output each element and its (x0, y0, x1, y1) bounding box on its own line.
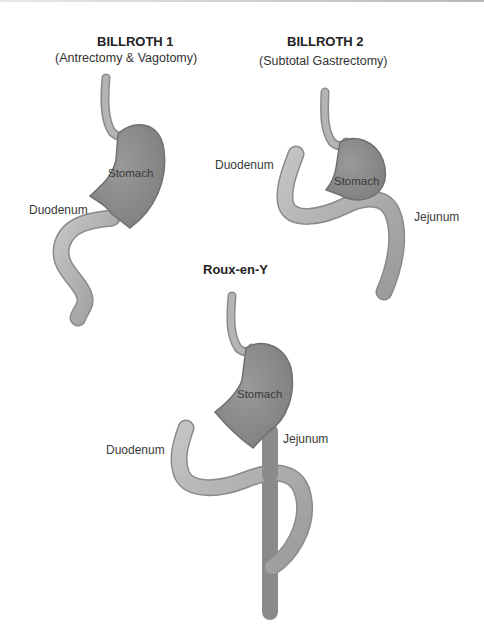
billroth-1-illustration (61, 78, 165, 318)
billroth-2-jejunum-label: Jejunum (414, 210, 459, 224)
billroth-1-subtitle: (Antrectomy & Vagotomy) (55, 51, 197, 65)
billroth-1-stomach-label: Stomach (108, 167, 153, 179)
billroth-2-subtitle: (Subtotal Gastrectomy) (259, 54, 388, 68)
billroth-1-title: BILLROTH 1 (97, 34, 174, 49)
roux-en-y-stomach-label: Stomach (237, 388, 282, 400)
billroth-2-duodenum-label: Duodenum (215, 158, 274, 172)
billroth-2-title: BILLROTH 2 (287, 34, 364, 49)
roux-en-y-duodenum-label: Duodenum (106, 443, 165, 457)
roux-en-y-jejunum-label: Jejunum (283, 432, 328, 446)
billroth-1-duodenum-label: Duodenum (29, 203, 88, 217)
roux-en-y-title: Roux-en-Y (203, 262, 268, 277)
billroth-2-stomach-label: Stomach (334, 175, 379, 187)
roux-en-y-illustration (179, 296, 305, 612)
billroth-2-illustration (285, 92, 397, 292)
surgical-diagrams (0, 0, 484, 635)
